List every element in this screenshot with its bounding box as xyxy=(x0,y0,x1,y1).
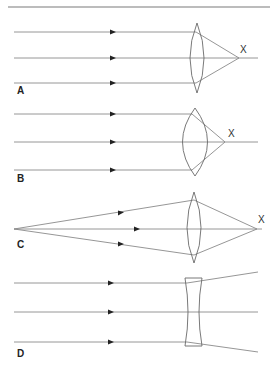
arrow-icon xyxy=(108,281,114,286)
arrow-icon xyxy=(110,56,116,61)
focus-label-c: X xyxy=(258,214,265,225)
panel-label-b: B xyxy=(17,173,24,184)
panel-a xyxy=(14,23,258,93)
lens-diagram xyxy=(0,0,279,369)
arrow-icon xyxy=(110,112,116,117)
panel-b xyxy=(14,108,258,176)
arrow-icon xyxy=(134,227,140,232)
panel-d xyxy=(14,272,258,352)
panel-label-c: C xyxy=(17,239,24,250)
arrow-icon xyxy=(108,310,114,315)
panel-label-d: D xyxy=(17,348,24,359)
arrow-icon xyxy=(110,140,116,145)
arrow-icon xyxy=(110,30,116,35)
focus-label-b: X xyxy=(228,128,235,139)
arrow-icon xyxy=(118,242,124,247)
arrow-icon xyxy=(110,81,116,86)
panel-label-a: A xyxy=(17,85,24,96)
focus-label-a: X xyxy=(240,44,247,55)
arrow-icon xyxy=(108,340,114,345)
arrow-icon xyxy=(110,168,116,173)
panel-c xyxy=(14,192,262,263)
